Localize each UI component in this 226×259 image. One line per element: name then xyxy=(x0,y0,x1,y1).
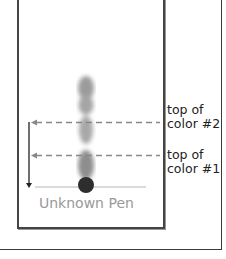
arrowhead-left-icon xyxy=(31,153,37,159)
marker-label-line1: top of xyxy=(167,148,220,162)
marker-label-line1: top of xyxy=(167,103,220,117)
arrowhead-left-icon xyxy=(31,120,37,126)
ink-dot xyxy=(78,177,94,193)
marker-label-line2: color #2 xyxy=(167,117,220,131)
strip-label: Unknown Pen xyxy=(39,195,134,211)
marker-label-color-1: top of color #1 xyxy=(167,148,220,176)
arrowhead-down-icon xyxy=(26,183,32,188)
marker-label-line2: color #1 xyxy=(167,162,220,176)
marker-label-color-2: top of color #2 xyxy=(167,103,220,131)
ink-smear xyxy=(78,76,94,180)
